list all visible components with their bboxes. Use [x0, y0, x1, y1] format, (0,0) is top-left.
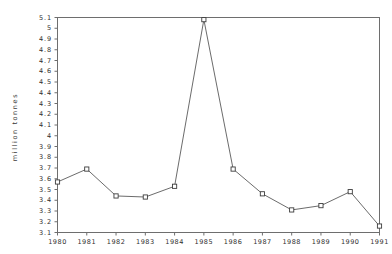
data-point-marker [377, 224, 381, 228]
data-point-marker [260, 192, 264, 196]
data-point-marker [202, 18, 206, 22]
data-point-marker [172, 184, 176, 188]
series-line-million-tonnes [58, 20, 380, 226]
data-point-marker [290, 208, 294, 212]
data-point-marker [114, 194, 118, 198]
data-point-marker [319, 204, 323, 208]
data-point-marker [143, 195, 147, 199]
data-point-marker [55, 180, 59, 184]
data-point-marker [231, 167, 235, 171]
plot-area [0, 0, 392, 254]
y-axis-ticks [55, 18, 58, 233]
chart-container: million tonnes 5.154.94.84.74.64.54.44.3… [0, 0, 392, 254]
data-point-marker [85, 167, 89, 171]
data-point-marker [348, 190, 352, 194]
series-markers [55, 18, 381, 229]
